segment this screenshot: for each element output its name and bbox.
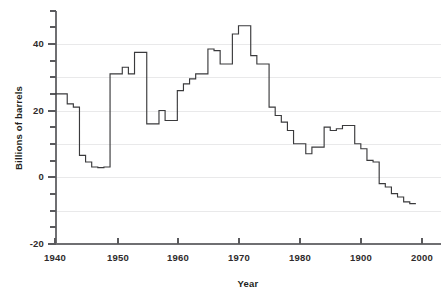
x-axis-ticks: [55, 238, 422, 244]
chart-figure: 40 20 0 -20 1940 1950 1960 1970 1980 190…: [0, 0, 447, 300]
y-tick-label-0: 0: [39, 171, 44, 182]
y-axis-minor-ticks: [50, 11, 56, 227]
x-tick-label-1970: 1970: [228, 252, 250, 263]
y-tick-labels: 40 20 0 -20: [30, 38, 44, 249]
x-tick-label-1980: 1980: [289, 252, 311, 263]
gridlines: [56, 44, 441, 211]
x-tick-label-2000: 2000: [411, 252, 433, 263]
step-line-chart: 40 20 0 -20 1940 1950 1960 1970 1980 190…: [0, 0, 447, 300]
axis-spines: [56, 11, 441, 244]
x-axis-title: Year: [238, 278, 259, 289]
y-tick-label-neg20: -20: [30, 238, 44, 249]
x-tick-label-1900: 1900: [350, 252, 372, 263]
y-tick-label-40: 40: [33, 38, 44, 49]
x-tick-labels: 1940 1950 1960 1970 1980 1900 2000: [44, 252, 433, 263]
y-tick-label-20: 20: [33, 105, 44, 116]
x-tick-label-1940: 1940: [44, 252, 66, 263]
y-axis-title: Billions of barrels: [13, 86, 24, 170]
x-tick-label-1960: 1960: [167, 252, 189, 263]
x-tick-label-1950: 1950: [107, 252, 129, 263]
